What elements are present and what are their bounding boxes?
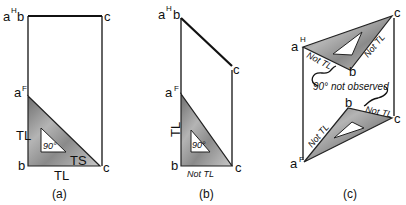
- label-a-h: a: [158, 7, 166, 22]
- label-sup-f: F: [22, 84, 27, 93]
- label-a-h: a: [291, 39, 299, 54]
- panel-b: a H b c a F b c TL Not TL 90° (b): [158, 4, 242, 201]
- annotation-horizontal-not-tl: Not TL: [187, 169, 214, 179]
- label-b-f: b: [345, 95, 352, 110]
- annotation-90-not-observed: 90° not observed: [313, 81, 389, 92]
- label-c-f: c: [394, 111, 401, 126]
- label-c-h: c: [233, 62, 240, 77]
- label-sup-f: F: [174, 84, 179, 93]
- panel-c: a H b c a F b c Not TL Not TL Not TL Not…: [290, 5, 401, 201]
- label-b-f: b: [18, 158, 25, 173]
- label-c-h: c: [104, 9, 111, 24]
- top-view-edge-bc: [181, 18, 232, 66]
- label-sup-h: H: [166, 4, 172, 13]
- caption-b: (b): [199, 187, 214, 201]
- annotation-angle: 90°: [192, 140, 206, 150]
- label-c-f: c: [235, 160, 242, 175]
- annotation-horizontal-tl: TL: [54, 168, 69, 183]
- triangle-front-view: [28, 96, 100, 166]
- label-a-f: a: [165, 85, 173, 100]
- label-b-h: b: [349, 64, 356, 79]
- label-a-f: a: [14, 85, 22, 100]
- panel-a: a H b c a F b c TL TL TS 90° (a): [3, 6, 111, 201]
- caption-c: (c): [343, 187, 357, 201]
- label-a-f: a: [290, 156, 298, 171]
- annotation-angle: 90°: [43, 141, 57, 151]
- label-b-h: b: [17, 9, 24, 24]
- triangle-front-view: [181, 94, 232, 166]
- label-c-f: c: [103, 160, 110, 175]
- label-sup-h: H: [300, 35, 306, 44]
- orthographic-diagram: a H b c a F b c TL TL TS 90° (a) a H b c…: [0, 0, 406, 205]
- label-a-h: a: [3, 9, 11, 24]
- annotation-hypotenuse-ts: TS: [70, 153, 87, 168]
- annotation-vertical-tl: TL: [16, 128, 31, 143]
- label-b-h: b: [173, 7, 180, 22]
- annotation-vertical-tl: TL: [168, 122, 183, 137]
- caption-a: (a): [52, 187, 67, 201]
- label-sup-f: F: [299, 155, 304, 164]
- label-c-h: c: [394, 5, 401, 20]
- label-b-f: b: [171, 158, 178, 173]
